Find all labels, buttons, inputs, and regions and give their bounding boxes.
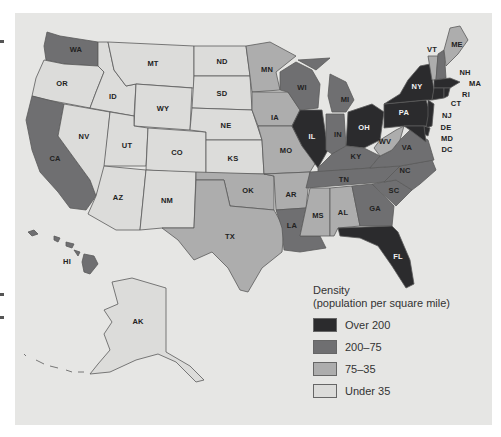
legend-swatch: [313, 318, 337, 332]
label-NH: NH: [459, 68, 470, 77]
label-LA: LA: [287, 221, 297, 230]
legend-swatch: [313, 384, 337, 398]
label-DE: DE: [441, 123, 452, 132]
legend-item-75-35: 75–35: [313, 362, 450, 376]
label-PA: PA: [399, 108, 409, 117]
legend-label: 200–75: [345, 341, 382, 353]
label-GA: GA: [369, 204, 381, 213]
label-IA: IA: [271, 113, 279, 122]
label-IL: IL: [308, 132, 315, 141]
label-IN: IN: [334, 130, 342, 139]
label-KS: KS: [228, 154, 239, 163]
legend-item-over-200: Over 200: [313, 318, 450, 332]
label-KY: KY: [351, 152, 362, 161]
legend-item-200-75: 200–75: [313, 340, 450, 354]
label-WI: WI: [297, 83, 307, 92]
label-MI: MI: [341, 95, 350, 104]
label-SD: SD: [217, 89, 228, 98]
legend-label: 75–35: [345, 363, 376, 375]
label-CO: CO: [171, 148, 183, 157]
label-WV: WV: [379, 137, 391, 146]
legend-swatch: [313, 340, 337, 354]
label-SC: SC: [389, 186, 400, 195]
state-MA[interactable]: [434, 78, 460, 88]
label-NJ: NJ: [442, 111, 452, 120]
state-NY[interactable]: [384, 64, 434, 104]
label-AK: AK: [132, 317, 143, 326]
label-NY: NY: [412, 82, 423, 91]
label-MO: MO: [280, 146, 292, 155]
state-AK[interactable]: [90, 278, 204, 382]
legend-label: Over 200: [345, 319, 390, 331]
label-AZ: AZ: [113, 193, 123, 202]
legend: Density (population per square mile) Ove…: [313, 284, 450, 398]
label-NE: NE: [221, 121, 232, 130]
label-OH: OH: [358, 123, 370, 132]
label-OK: OK: [242, 186, 254, 195]
label-CA: CA: [49, 154, 60, 163]
label-TN: TN: [339, 175, 349, 184]
label-VA: VA: [402, 143, 412, 152]
state-CT[interactable]: [432, 88, 444, 100]
label-NV: NV: [79, 132, 90, 141]
state-HI[interactable]: [28, 230, 98, 274]
legend-label: Under 35: [345, 385, 390, 397]
label-MT: MT: [147, 59, 158, 68]
label-NM: NM: [161, 196, 173, 205]
label-DC: DC: [441, 145, 452, 154]
label-HI: HI: [63, 257, 71, 266]
legend-title: Density: [313, 284, 450, 297]
label-RI: RI: [462, 90, 470, 99]
label-UT: UT: [122, 141, 132, 150]
label-MS: MS: [312, 211, 324, 220]
legend-subtitle: (population per square mile): [313, 297, 450, 310]
alaska-aleutians: [24, 354, 84, 372]
label-TX: TX: [225, 232, 235, 241]
label-VT: VT: [427, 45, 437, 54]
label-ND: ND: [216, 57, 227, 66]
label-FL: FL: [393, 252, 403, 261]
label-OR: OR: [56, 79, 68, 88]
label-AL: AL: [338, 208, 348, 217]
label-ID: ID: [109, 92, 117, 101]
label-AR: AR: [285, 190, 296, 199]
label-WA: WA: [70, 45, 82, 54]
label-MN: MN: [261, 65, 273, 74]
label-MA: MA: [469, 79, 481, 88]
label-MD: MD: [441, 134, 453, 143]
label-NC: NC: [399, 166, 410, 175]
label-WY: WY: [157, 104, 169, 113]
legend-swatch: [313, 362, 337, 376]
state-RI[interactable]: [444, 88, 450, 98]
legend-item-under-35: Under 35: [313, 384, 450, 398]
label-CT: CT: [451, 99, 461, 108]
label-ME: ME: [451, 40, 463, 49]
